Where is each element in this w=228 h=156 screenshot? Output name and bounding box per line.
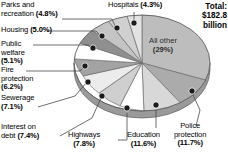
label-police-protection: Police protection (11.7%) [174,122,206,148]
marker-education [153,102,159,108]
marker-police-protection [189,88,195,94]
marker-highways [124,105,130,111]
total-unit: billion [169,21,227,30]
marker-fire-protection [82,63,88,69]
pie-chart-figure: Parks and recreation (4.8%) Housing (5.0… [0,0,228,156]
label-police-pct: (11.7%) [177,138,202,147]
label-parks-name2: recreation [1,9,34,18]
label-parks-and-recreation: Parks and recreation (4.8%) [1,1,58,18]
marker-housing [99,33,105,39]
label-public-welfare-pct: (5.1%) [1,56,23,65]
label-housing-pct: (5.0%) [30,25,52,34]
label-interest-pct: (7.4%) [17,131,39,140]
label-hospitals: Hospitals (4.3%) [108,1,162,10]
label-all-other-name: All other [149,36,177,45]
label-all-other-pct: (29%) [153,45,173,54]
label-housing: Housing (5.0%) [1,26,52,35]
total-label: Total: [169,2,227,11]
label-interest-on-debt: Interest on debt (7.4%) [1,123,39,140]
label-sewerage: Sewerage (7.1%) [1,94,34,111]
label-education-pct: (11.6%) [131,139,156,148]
label-highways-pct: (7.8%) [73,139,95,148]
marker-interest-on-debt [99,93,105,99]
label-highways: Highways (7.8%) [68,131,100,148]
label-all-other: All other (29%) [136,37,190,55]
marker-public-welfare [90,45,96,51]
label-parks-pct: (4.8%) [36,9,58,18]
label-fire-protection: Fire protection (6.2%) [1,66,33,92]
marker-hospitals [131,20,137,26]
label-interest-name2: debt [1,131,15,140]
marker-sewerage [85,79,91,85]
label-housing-name: Housing [1,25,28,34]
label-education: Education (11.6%) [127,131,160,148]
total-callout: Total: $182.8 billion [169,2,227,30]
label-sewerage-pct: (7.1%) [1,102,23,111]
label-fire-pct: (6.2%) [1,82,23,91]
marker-parks-and-recreation [114,25,120,31]
label-hospitals-pct: (4.3%) [140,0,162,9]
label-public-welfare: Public welfare (5.1%) [1,40,25,66]
label-hospitals-name: Hospitals [108,0,138,9]
total-value: $182.8 [169,11,227,20]
